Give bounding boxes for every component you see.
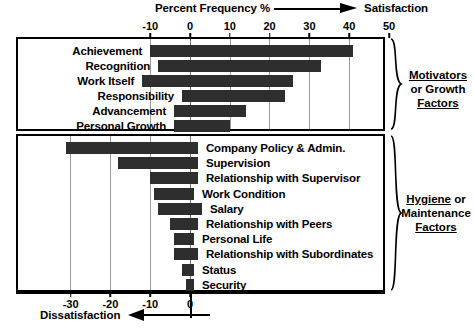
bar-row: Relationship with Supervisor (18, 170, 383, 185)
motivators-label-line1: Motivators (404, 68, 472, 82)
bar-category-label: Salary (210, 201, 244, 217)
bar-row: Personal Growth (18, 118, 383, 133)
bar-row: Relationship with Peers (18, 216, 383, 231)
top-axis-tick-label: 10 (224, 20, 236, 32)
hygiene-panel: Company Policy & Admin.SupervisionRelati… (16, 134, 385, 292)
chart-canvas: Percent Frequency % Satisfaction -100102… (0, 0, 474, 335)
top-axis-tick-label: 30 (303, 20, 315, 32)
hygiene-label-line3: Factors (398, 220, 474, 234)
bar-row: Achievement (18, 43, 383, 58)
bottom-axis-tick (70, 292, 72, 297)
bar-row: Relationship with Subordinates (18, 246, 383, 261)
bottom-axis-tick (149, 292, 151, 297)
top-axis-tick-label: 0 (187, 20, 193, 32)
bar-category-label: Relationship with Supervisor (206, 170, 360, 186)
bar-row: Work Condition (18, 186, 383, 201)
hygiene-group-label: Hygiene or Maintenance Factors (398, 192, 474, 234)
bar (182, 90, 285, 102)
dissatisfaction-label: Dissatisfaction (40, 309, 120, 321)
bar (186, 279, 194, 291)
bottom-axis: -30-20-100 (0, 292, 474, 310)
bar-category-label: Supervision (206, 155, 270, 171)
bar-category-label: Work Condition (202, 186, 285, 202)
bar (158, 203, 202, 215)
bar-row: Work Itself (18, 73, 383, 88)
bar-category-label: Achievement (72, 43, 142, 59)
top-axis-tick-label: 50 (383, 20, 395, 32)
bar-category-label: Advancement (92, 103, 166, 119)
bar-category-label: Recognition (85, 58, 150, 74)
bar (170, 218, 198, 230)
bar-category-label: Relationship with Subordinates (206, 246, 373, 262)
bar-category-label: Security (202, 277, 246, 293)
satisfaction-label: Satisfaction (364, 2, 428, 14)
bar-category-label: Work Itself (77, 73, 134, 89)
motivators-label-line2: or Growth (404, 82, 472, 96)
bar-row: Responsibility (18, 88, 383, 103)
chart-header: Percent Frequency % Satisfaction (155, 2, 428, 14)
bar-category-label: Personal Growth (76, 118, 166, 134)
bar-row: Salary (18, 201, 383, 216)
hygiene-plot-area: Company Policy & Admin.SupervisionRelati… (18, 136, 383, 290)
chart-footer: Dissatisfaction (40, 309, 210, 321)
bottom-axis-tick (110, 292, 112, 297)
bar (158, 60, 321, 72)
motivators-brace-icon (389, 38, 403, 130)
motivators-plot-area: AchievementRecognitionWork ItselfRespons… (18, 39, 383, 129)
bar-category-label: Status (202, 262, 236, 278)
bar-row: Recognition (18, 58, 383, 73)
top-axis-tick-label: 40 (343, 20, 355, 32)
bar-row: Security (18, 277, 383, 292)
bar (118, 157, 198, 169)
bar-row: Company Policy & Admin. (18, 140, 383, 155)
bar (174, 120, 230, 132)
left-arrow-icon (128, 309, 210, 321)
top-axis-tick-label: -10 (142, 20, 158, 32)
bar (174, 105, 246, 117)
bar-row: Supervision (18, 155, 383, 170)
bar-category-label: Personal Life (202, 231, 272, 247)
motivators-label-line3: Factors (404, 96, 472, 110)
motivators-panel: AchievementRecognitionWork ItselfRespons… (16, 37, 385, 131)
top-axis-tick-label: 20 (263, 20, 275, 32)
top-axis: -1001020304050 (0, 20, 474, 36)
motivators-group-label: Motivators or Growth Factors (404, 68, 472, 110)
bar (150, 172, 198, 184)
percent-frequency-label: Percent Frequency % (155, 2, 270, 14)
bar-category-label: Responsibility (98, 88, 175, 104)
bar (174, 233, 194, 245)
bar-row: Advancement (18, 103, 383, 118)
bar (150, 45, 353, 57)
bar (154, 188, 194, 200)
bar (182, 264, 194, 276)
bar-row: Status (18, 262, 383, 277)
right-arrow-icon (274, 3, 360, 14)
bar-category-label: Relationship with Peers (206, 216, 332, 232)
hygiene-label-line2: Maintenance (398, 206, 474, 220)
hygiene-label-line1: Hygiene or (398, 192, 474, 206)
bar (142, 75, 293, 87)
bar (66, 142, 197, 154)
bar-row: Personal Life (18, 231, 383, 246)
bar-category-label: Company Policy & Admin. (206, 140, 345, 156)
bar (174, 248, 198, 260)
